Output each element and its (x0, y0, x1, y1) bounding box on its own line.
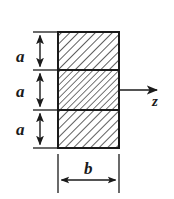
dimension-label-b: b (84, 160, 93, 177)
section-strips (58, 32, 119, 148)
strip-top (58, 32, 119, 70)
cross-section-figure: a a a b z (0, 0, 174, 199)
axis-label-z: z (152, 94, 158, 109)
dimension-label-a-top: a (16, 48, 25, 65)
dimension-label-a-middle: a (16, 83, 25, 100)
strip-bottom (58, 110, 119, 148)
dimension-label-a-bottom: a (16, 121, 25, 138)
extension-lines-left (33, 32, 60, 148)
strip-middle (58, 70, 119, 110)
